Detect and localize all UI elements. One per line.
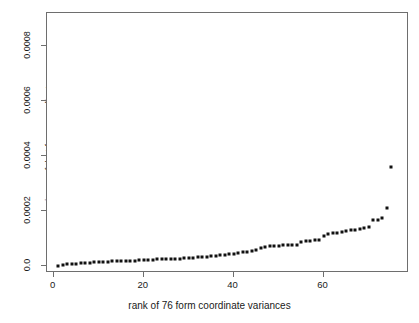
data-point [106, 260, 109, 263]
data-point [381, 217, 384, 220]
data-point [70, 262, 73, 265]
data-point [313, 239, 316, 242]
data-point [201, 255, 204, 258]
data-point [336, 231, 339, 234]
data-point [61, 263, 64, 266]
y-tick-label: 0.0008 [22, 32, 32, 60]
data-point [322, 235, 325, 238]
data-point [318, 239, 321, 242]
data-point [88, 261, 91, 264]
data-point [102, 260, 105, 263]
data-point [241, 251, 244, 254]
data-point [75, 262, 78, 265]
data-point [277, 244, 280, 247]
x-tick-label: 0 [50, 279, 55, 290]
data-point [142, 259, 145, 262]
data-point [165, 258, 168, 261]
data-point [57, 264, 60, 267]
x-tick-mark [53, 272, 54, 277]
data-point [376, 218, 379, 221]
data-point [111, 260, 114, 263]
data-point [115, 260, 118, 263]
data-point [385, 207, 388, 210]
data-point [232, 252, 235, 255]
data-point [169, 257, 172, 260]
data-point [223, 253, 226, 256]
data-point [210, 255, 213, 258]
data-point [219, 254, 222, 257]
data-point [273, 244, 276, 247]
data-point [228, 253, 231, 256]
data-point [156, 258, 159, 261]
data-point [205, 255, 208, 258]
data-point [358, 227, 361, 230]
data-point [304, 240, 307, 243]
data-point [268, 245, 271, 248]
data-point [327, 233, 330, 236]
data-point [129, 259, 132, 262]
data-point [192, 256, 195, 259]
x-tick-label: 60 [317, 279, 328, 290]
data-point [282, 244, 285, 247]
y-tick-label: 0.0004 [22, 141, 32, 169]
plot-frame [46, 12, 408, 272]
data-point [237, 251, 240, 254]
data-point [84, 261, 87, 264]
data-point [174, 257, 177, 260]
x-tick-label: 40 [227, 279, 238, 290]
x-tick-mark [143, 272, 144, 277]
data-point [367, 226, 370, 229]
data-point [286, 244, 289, 247]
data-point [66, 263, 69, 266]
data-point [93, 261, 96, 264]
x-tick-label: 20 [137, 279, 148, 290]
data-point [291, 244, 294, 247]
data-point [340, 230, 343, 233]
scatter-plot-figure: variance of ln CS variance of the single… [0, 0, 419, 323]
data-point [138, 259, 141, 262]
y-tick-label: 0.0006 [22, 87, 32, 115]
data-point [363, 227, 366, 230]
data-point [97, 261, 100, 264]
data-point [196, 256, 199, 259]
data-point [246, 250, 249, 253]
data-point [309, 239, 312, 242]
data-point [259, 247, 262, 250]
data-point [372, 218, 375, 221]
data-point [250, 250, 253, 253]
data-point [345, 230, 348, 233]
data-point [147, 258, 150, 261]
data-point [354, 228, 357, 231]
y-tick-label: 0.0002 [22, 196, 32, 224]
data-point [124, 259, 127, 262]
data-point [264, 246, 267, 249]
data-point [183, 257, 186, 260]
data-point [295, 243, 298, 246]
data-point [331, 232, 334, 235]
data-point [214, 254, 217, 257]
data-point [133, 259, 136, 262]
data-point [160, 258, 163, 261]
x-axis-title: rank of 76 form coordinate variances [0, 300, 419, 311]
y-tick-label: 0.0 [22, 259, 32, 272]
data-point [255, 249, 258, 252]
data-point [120, 260, 123, 263]
data-points-layer [47, 13, 407, 271]
data-point [178, 257, 181, 260]
data-point [349, 229, 352, 232]
x-tick-mark [233, 272, 234, 277]
data-point [300, 240, 303, 243]
data-point [390, 166, 393, 169]
x-tick-mark [323, 272, 324, 277]
data-point [187, 257, 190, 260]
data-point [151, 258, 154, 261]
data-point [79, 262, 82, 265]
